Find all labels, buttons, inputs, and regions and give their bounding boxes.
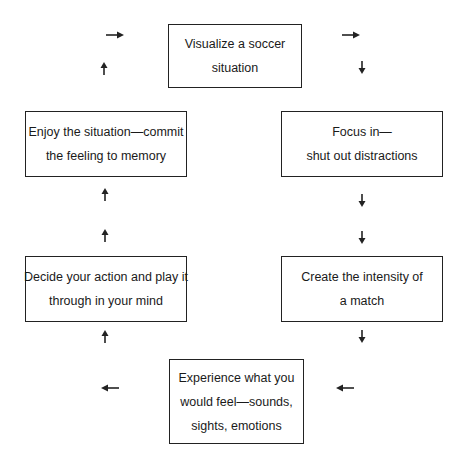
node-visualize-line-2: situation xyxy=(212,56,259,80)
node-visualize-line-1: Visualize a soccer xyxy=(185,32,286,56)
arrow-right-icon xyxy=(105,30,125,40)
node-enjoy: Enjoy the situation—commit the feeling t… xyxy=(25,111,187,177)
arrow-right-icon xyxy=(341,30,361,40)
node-decide-line-2: through in your mind xyxy=(49,289,163,313)
arrow-up-icon xyxy=(100,188,110,202)
arrow-down-icon xyxy=(357,193,367,207)
node-intensity: Create the intensity of a match xyxy=(281,256,443,322)
node-focus-line-2: shut out distractions xyxy=(306,144,417,168)
arrow-down-icon xyxy=(357,60,367,74)
node-visualize: Visualize a soccer situation xyxy=(168,24,302,88)
node-focus: Focus in— shut out distractions xyxy=(281,111,443,177)
arrow-left-icon xyxy=(335,383,355,393)
node-experience-line-1: Experience what you xyxy=(178,366,294,390)
arrow-up-icon xyxy=(100,229,110,243)
node-focus-line-1: Focus in— xyxy=(332,120,392,144)
node-enjoy-line-1: Enjoy the situation—commit xyxy=(29,120,184,144)
arrow-down-icon xyxy=(357,230,367,244)
arrow-left-icon xyxy=(100,383,120,393)
arrow-down-icon xyxy=(357,329,367,343)
node-experience-line-3: sights, emotions xyxy=(191,414,281,438)
node-intensity-line-1: Create the intensity of xyxy=(301,265,423,289)
node-decide-line-1: Decide your action and play it xyxy=(24,265,188,289)
arrow-up-icon xyxy=(100,330,110,344)
node-experience: Experience what you would feel—sounds, s… xyxy=(169,359,304,444)
node-enjoy-line-2: the feeling to memory xyxy=(46,144,166,168)
arrow-up-icon xyxy=(99,62,109,76)
node-intensity-line-2: a match xyxy=(340,289,384,313)
node-decide: Decide your action and play it through i… xyxy=(25,256,187,322)
node-experience-line-2: would feel—sounds, xyxy=(180,390,293,414)
